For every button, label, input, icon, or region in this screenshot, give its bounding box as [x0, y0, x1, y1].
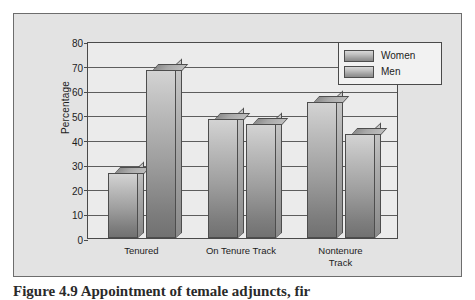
bar-side-face: [375, 122, 381, 238]
y-axis-tick-mark: [84, 67, 88, 68]
bar-side-face: [238, 107, 244, 238]
bar-men-1: [246, 118, 276, 238]
y-axis-tick-mark: [84, 116, 88, 117]
x-axis-category-label: Nontenure Track: [280, 245, 400, 269]
bar-front-face: [345, 134, 375, 238]
bar-top-face: [152, 64, 188, 71]
y-axis-tick-label: 40: [72, 136, 83, 147]
y-axis-tick-mark: [84, 240, 88, 241]
y-axis-tick-label: 50: [72, 111, 83, 122]
bar-top-face: [313, 96, 349, 103]
figure-frame: Percentage 01020304050607080 TenuredOn T…: [13, 13, 462, 277]
y-axis-tick-mark: [84, 166, 88, 167]
bar-top-face: [214, 113, 250, 120]
legend-label-men: Men: [381, 66, 400, 77]
bar-men-0: [146, 64, 176, 238]
legend-item-women: Women: [344, 48, 436, 63]
bar-top-face: [252, 118, 288, 125]
bar-front-face: [146, 70, 176, 238]
bar-side-face: [176, 58, 182, 238]
bar-side-face: [337, 90, 343, 238]
y-axis-tick-mark: [84, 215, 88, 216]
gridline: [88, 92, 398, 93]
y-axis-tick-label: 80: [72, 38, 83, 49]
bar-men-2: [345, 128, 375, 238]
bar-front-face: [307, 102, 337, 238]
bar-women-1: [208, 113, 238, 238]
y-axis-tick-label: 10: [72, 210, 83, 221]
bar-top-face: [351, 128, 387, 135]
bar-side-face: [276, 112, 282, 238]
y-axis-title: Percentage: [60, 53, 71, 163]
bar-top-face: [114, 167, 150, 174]
y-axis-tick-label: 30: [72, 161, 83, 172]
bar-women-0: [108, 167, 138, 238]
y-axis-tick-mark: [84, 141, 88, 142]
bar-front-face: [108, 173, 138, 238]
legend-item-men: Men: [344, 64, 436, 79]
y-axis-tick-label: 60: [72, 87, 83, 98]
y-axis-tick-label: 70: [72, 62, 83, 73]
y-axis-tick-mark: [84, 92, 88, 93]
figure-caption: Figure 4.9 Appointment of temale adjunct…: [13, 283, 462, 300]
y-axis-tick-label: 0: [77, 235, 83, 246]
bar-front-face: [208, 119, 238, 238]
legend-swatch-men: [344, 66, 374, 78]
y-axis-tick-mark: [84, 43, 88, 44]
bar-front-face: [246, 124, 276, 238]
legend-swatch-women: [344, 50, 374, 62]
bar-women-2: [307, 96, 337, 238]
y-axis-tick-label: 20: [72, 185, 83, 196]
y-axis-tick-mark: [84, 190, 88, 191]
chart-legend: Women Men: [338, 42, 442, 85]
legend-label-women: Women: [381, 50, 415, 61]
